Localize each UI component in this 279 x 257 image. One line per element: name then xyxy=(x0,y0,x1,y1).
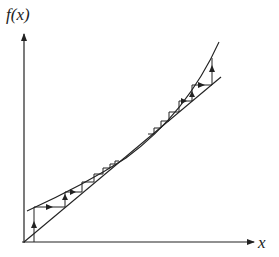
y-axis-label: f(x) xyxy=(6,6,30,23)
diagram-svg xyxy=(0,0,279,257)
cobweb-lower-arrows xyxy=(31,189,76,228)
diagonal-line xyxy=(24,77,221,242)
cobweb-diagram: f(x) x xyxy=(0,0,279,257)
x-axis-label: x xyxy=(258,234,266,251)
cobweb-upper xyxy=(148,58,212,134)
function-curve xyxy=(27,42,219,211)
